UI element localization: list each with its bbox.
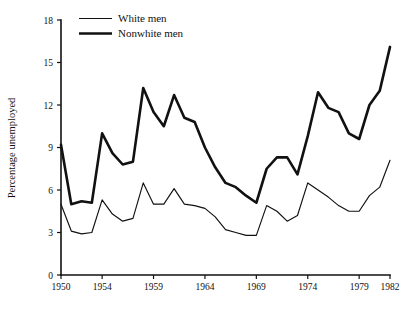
y-axis-tick-label: 3 [48, 228, 53, 238]
y-axis-tick-label: 0 [48, 271, 53, 281]
x-axis-tick-label: 1974 [298, 282, 317, 292]
y-axis-tick-label: 15 [44, 58, 54, 68]
y-axis-tick-label: 9 [48, 143, 53, 153]
x-axis-tick-label: 1959 [144, 282, 163, 292]
y-axis-tick-label: 12 [44, 101, 54, 111]
x-axis-tick-labels: 19501954195919641969197419791982 [52, 282, 400, 292]
series-line-nonwhite-men [61, 47, 390, 204]
chart-canvas: 0369121518 19501954195919641969197419791… [0, 0, 411, 311]
legend-label-nonwhite-men: Nonwhite men [118, 27, 184, 39]
x-axis-tick-label: 1954 [93, 282, 112, 292]
y-axis-title: Percentage unemployed [6, 97, 17, 198]
legend-label-white-men: White men [118, 12, 167, 24]
x-axis-tick-label: 1979 [350, 282, 369, 292]
y-axis-tick-label: 6 [48, 186, 53, 196]
x-axis-tick-label: 1982 [381, 282, 400, 292]
plot-axes [57, 20, 390, 279]
series-line-white-men [61, 160, 390, 235]
x-axis-tick-label: 1950 [52, 282, 71, 292]
x-axis-tick-label: 1969 [247, 282, 266, 292]
unemployment-line-chart: 0369121518 19501954195919641969197419791… [0, 0, 411, 311]
y-axis-tick-label: 18 [44, 16, 54, 26]
chart-legend: White men Nonwhite men [79, 12, 184, 39]
series-lines [61, 47, 390, 235]
x-axis-tick-label: 1964 [195, 282, 214, 292]
y-axis-tick-labels: 0369121518 [44, 16, 54, 281]
